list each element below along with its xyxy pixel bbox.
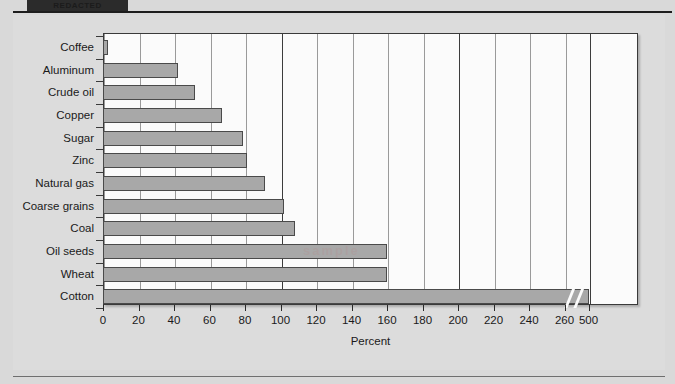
y-label-coffee: Coffee <box>60 41 94 54</box>
bar-wheat <box>103 267 387 282</box>
x-tick-220 <box>494 305 495 311</box>
bar-copper <box>103 108 222 123</box>
y-label-coarse-grains: Coarse grains <box>22 200 94 213</box>
x-label-20: 20 <box>119 313 159 327</box>
x-tick-20 <box>139 305 140 311</box>
y-tick <box>96 81 103 82</box>
bar-sugar <box>103 131 243 146</box>
x-axis-title: Percent <box>103 335 638 347</box>
x-label-240: 240 <box>509 313 549 327</box>
y-tick <box>96 36 103 37</box>
x-tick-40 <box>174 305 175 311</box>
x-label-0: 0 <box>83 313 123 327</box>
x-tick-260 <box>565 305 566 311</box>
y-tick <box>96 149 103 150</box>
x-tick-180 <box>423 305 424 311</box>
y-tick <box>96 195 103 196</box>
bar-oil-seeds <box>103 244 387 259</box>
x-label-40: 40 <box>154 313 194 327</box>
x-label-160: 160 <box>367 313 407 327</box>
redacted-title-bar: REDACTED <box>27 0 128 11</box>
y-label-aluminum: Aluminum <box>43 64 94 77</box>
x-tick-120 <box>316 305 317 311</box>
x-label-100: 100 <box>261 313 301 327</box>
bar-aluminum <box>103 63 178 78</box>
x-label-120: 120 <box>296 313 336 327</box>
y-axis-category-labels: CoffeeAluminumCrude oilCopperSugarZincNa… <box>13 33 99 305</box>
y-label-coal: Coal <box>70 222 94 235</box>
y-tick <box>96 263 103 264</box>
bar-natural-gas <box>103 176 265 191</box>
x-label-200: 200 <box>438 313 478 327</box>
bar-coarse-grains <box>103 199 284 214</box>
figure-container: CoffeeAluminumCrude oilCopperSugarZincNa… <box>13 15 665 370</box>
x-tick-140 <box>352 305 353 311</box>
x-tick-240 <box>529 305 530 311</box>
y-tick <box>96 285 103 286</box>
y-label-sugar: Sugar <box>63 132 94 145</box>
y-tick <box>96 217 103 218</box>
bar-zinc <box>103 153 247 168</box>
x-label-180: 180 <box>403 313 443 327</box>
top-divider-rule <box>13 11 672 13</box>
x-label-140: 140 <box>332 313 372 327</box>
y-tick <box>96 104 103 105</box>
x-tick-200 <box>458 305 459 311</box>
y-tick <box>96 127 103 128</box>
y-label-cotton: Cotton <box>60 290 94 303</box>
y-tick <box>96 308 103 309</box>
bar-crude-oil <box>103 85 195 100</box>
y-tick <box>96 59 103 60</box>
bar-coal <box>103 221 295 236</box>
y-label-zinc: Zinc <box>72 154 94 167</box>
y-label-crude-oil: Crude oil <box>48 86 94 99</box>
y-label-copper: Copper <box>56 109 94 122</box>
bar-cotton <box>103 289 589 304</box>
y-label-natural-gas: Natural gas <box>35 177 94 190</box>
y-label-wheat: Wheat <box>61 268 94 281</box>
y-tick <box>96 240 103 241</box>
x-label-80: 80 <box>225 313 265 327</box>
x-label-500: 500 <box>569 313 609 327</box>
x-label-60: 60 <box>190 313 230 327</box>
bars-layer <box>103 33 638 305</box>
x-tick-0 <box>103 305 104 311</box>
x-tick-80 <box>245 305 246 311</box>
y-label-oil-seeds: Oil seeds <box>46 245 94 258</box>
x-tick-100 <box>281 305 282 311</box>
x-tick-60 <box>210 305 211 311</box>
x-tick-160 <box>387 305 388 311</box>
y-tick <box>96 172 103 173</box>
bar-coffee <box>103 40 108 55</box>
x-label-220: 220 <box>474 313 514 327</box>
bottom-divider-rule <box>13 376 665 377</box>
x-tick-500 <box>589 305 590 311</box>
